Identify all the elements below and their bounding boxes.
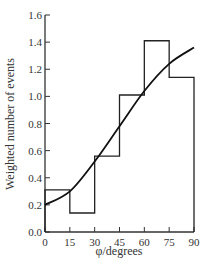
y-tick-label: 1.0 — [28, 90, 42, 102]
x-tick-label: 90 — [189, 236, 201, 248]
y-tick-label: 0.6 — [28, 145, 42, 157]
histogram-bars — [45, 41, 194, 232]
x-tick-label: 15 — [64, 236, 76, 248]
y-tick-label: 0.0 — [28, 226, 42, 238]
y-tick-label: 0.2 — [28, 199, 42, 211]
y-tick-label: 1.2 — [28, 63, 42, 75]
axis-labels: φ/degrees Weighted number of events — [3, 58, 143, 258]
x-tick-label: 0 — [42, 236, 48, 248]
y-tick-label: 0.8 — [28, 118, 42, 130]
y-axis-label: Weighted number of events — [3, 58, 17, 190]
y-tick-label: 1.4 — [28, 36, 42, 48]
x-tick-label: 75 — [164, 236, 176, 248]
fit-curve — [45, 48, 194, 205]
y-tick-label: 0.4 — [28, 172, 42, 184]
y-tick-label: 1.6 — [28, 9, 42, 21]
axes: 0.00.20.40.60.81.01.21.41.60153045607590 — [28, 9, 200, 248]
histogram-outline — [45, 41, 194, 232]
histogram-chart: 0.00.20.40.60.81.01.21.41.60153045607590… — [0, 0, 210, 271]
x-axis-label: φ/degrees — [96, 244, 143, 258]
